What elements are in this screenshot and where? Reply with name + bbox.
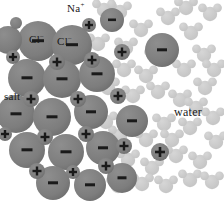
chloride-ion-label-2: Cl– bbox=[57, 34, 72, 47]
chloride-ion-label-1: Cl– bbox=[29, 32, 44, 45]
sodium-ion bbox=[110, 88, 126, 104]
sodium-ion bbox=[6, 50, 20, 64]
molecule-scene bbox=[0, 0, 224, 203]
chloride-ion bbox=[116, 105, 148, 137]
sodium-ion bbox=[84, 52, 100, 68]
salt-region-label: salt bbox=[4, 90, 20, 102]
chloride-ion bbox=[48, 134, 84, 170]
chloride-ion bbox=[0, 26, 22, 54]
sodium-ion bbox=[37, 129, 53, 145]
chloride-ion bbox=[33, 98, 71, 136]
sodium-ion bbox=[82, 18, 96, 32]
sodium-ion bbox=[114, 44, 130, 60]
sodium-ion bbox=[78, 126, 94, 142]
water-region-label: water bbox=[174, 105, 202, 120]
sodium-ion-label: Na+ bbox=[67, 1, 85, 14]
sodium-ion bbox=[98, 158, 114, 174]
sodium-ion bbox=[66, 165, 80, 179]
chloride-ion bbox=[145, 33, 179, 67]
sodium-ion bbox=[10, 17, 22, 29]
sodium-ion bbox=[29, 163, 45, 179]
sodium-ion bbox=[116, 138, 132, 154]
sodium-ion bbox=[70, 91, 86, 107]
salt-dissolution-figure: Na+ Cl– Cl– salt water bbox=[0, 0, 224, 203]
sodium-ion bbox=[49, 54, 65, 70]
sodium-ion bbox=[151, 143, 169, 161]
sodium-ion bbox=[23, 91, 39, 107]
chloride-ion bbox=[100, 8, 124, 32]
